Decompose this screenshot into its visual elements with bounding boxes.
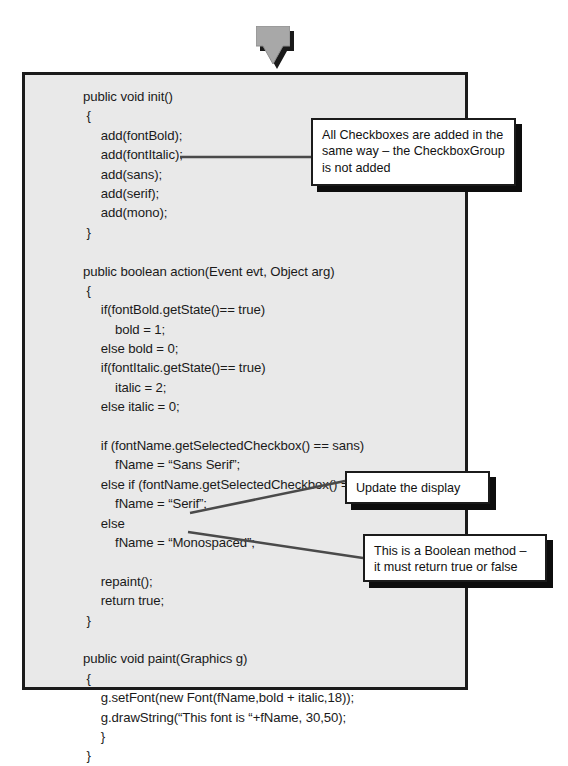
code-line: { (83, 281, 388, 300)
code-line: public boolean action(Event evt, Object … (83, 262, 388, 281)
code-line: } (83, 746, 388, 765)
code-line: else italic = 0; (83, 397, 388, 416)
code-line: if (fontName.getSelectedCheckbox() == sa… (83, 436, 388, 455)
callout-boolean-method: This is a Boolean method – it must retur… (363, 534, 547, 582)
code-line (83, 552, 388, 571)
code-line: else bold = 0; (83, 339, 388, 358)
code-line: { (83, 669, 388, 688)
code-line: } (83, 611, 388, 630)
code-line: public void paint(Graphics g) (83, 649, 388, 668)
code-line: add(mono); (83, 203, 388, 222)
code-line: fName = “Monospaced”; (83, 533, 388, 552)
code-line: g.setFont(new Font(fName,bold + italic,1… (83, 688, 388, 707)
code-line: } (83, 223, 388, 242)
code-line: public void init() (83, 87, 388, 106)
callout-update-display: Update the display (345, 471, 490, 504)
callout-checkboxes-added: All Checkboxes are added in the same way… (311, 118, 516, 186)
code-line: g.drawString(“This font is “+fName, 30,5… (83, 708, 388, 727)
code-line: else if (fontName.getSelectedCheckbox() … (83, 475, 388, 494)
code-line: if(fontBold.getState()== true) (83, 300, 388, 319)
arrow-down-icon (256, 26, 300, 72)
arrow-down-shape (256, 26, 290, 64)
code-line: italic = 2; (83, 378, 388, 397)
code-line: return true; (83, 591, 388, 610)
code-line: fName = “Sans Serif”; (83, 455, 388, 474)
code-line (83, 242, 388, 261)
code-line: repaint(); (83, 572, 388, 591)
code-line: if(fontItalic.getState()== true) (83, 358, 388, 377)
code-line: fName = “Serif”; (83, 494, 388, 513)
code-line (83, 630, 388, 649)
code-line (83, 417, 388, 436)
code-line: } (83, 727, 388, 746)
code-line: else (83, 514, 388, 533)
code-line: bold = 1; (83, 320, 388, 339)
